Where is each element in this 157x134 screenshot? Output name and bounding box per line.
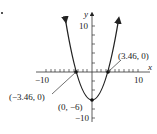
label-right-root: (3.46, 0): [118, 51, 149, 61]
leader-left: [52, 72, 76, 94]
label-left-root: (−3.46, 0): [9, 92, 45, 102]
x-axis: −10 10 x: [35, 62, 152, 85]
x-axis-label: x: [147, 62, 152, 72]
label-vertex: (0, −6): [58, 102, 83, 112]
x-tick-neg10: −10: [35, 75, 50, 85]
bullet-marker: [1, 12, 3, 14]
vertex-point: [90, 98, 94, 102]
y-axis-label: y: [83, 9, 88, 19]
x-tick-10: 10: [134, 75, 144, 85]
parabola-graph: −10 10 x 10 −10 y (−3.46, 0) (3.46, 0) (…: [0, 0, 157, 134]
y-tick-neg10: −10: [75, 113, 90, 123]
y-tick-10: 10: [79, 21, 89, 31]
